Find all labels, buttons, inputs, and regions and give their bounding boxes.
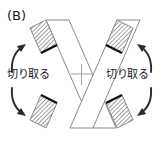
figure-panel-b: (B) 切り取る 切り取る	[0, 0, 163, 148]
curved-arrow-down-right-icon	[12, 88, 26, 116]
cut-label-right: 切り取る	[106, 69, 149, 80]
curved-arrow-down-left-icon	[137, 88, 151, 116]
panel-label: (B)	[7, 9, 26, 22]
cut-piece-bottom-left	[30, 95, 57, 128]
cut-label-left: 切り取る	[7, 69, 50, 80]
